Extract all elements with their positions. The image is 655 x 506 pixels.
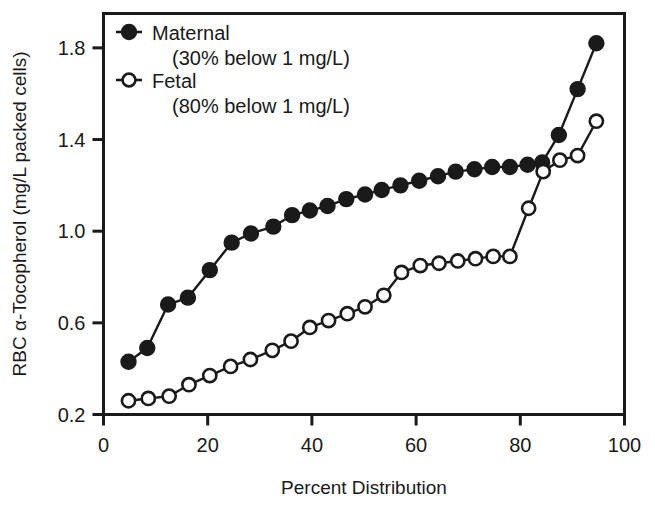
data-point [503, 250, 516, 263]
data-point [266, 344, 279, 357]
legend-sublabel: (30% below 1 mg/L) [172, 47, 350, 69]
data-point [244, 226, 259, 241]
chart-figure: 0.20.61.01.41.8 020406080100 Percent Dis… [0, 0, 655, 506]
data-point [571, 149, 584, 162]
data-point [285, 208, 300, 223]
data-point [590, 115, 603, 128]
data-point [224, 235, 239, 250]
data-point [303, 321, 316, 334]
data-point [377, 289, 390, 302]
data-point [502, 160, 517, 175]
data-point [414, 259, 427, 272]
data-point [181, 290, 196, 305]
legend-item-maternal: Maternal(30% below 1 mg/L) [116, 22, 350, 69]
data-point [202, 263, 217, 278]
data-point [522, 202, 535, 215]
data-point [339, 192, 354, 207]
data-point [121, 354, 136, 369]
y-tick-label: 1.0 [58, 220, 86, 242]
legend-label: Fetal [152, 70, 196, 92]
y-axis-title: RBC α-Tocopherol (mg/L packed cells) [9, 52, 30, 377]
x-tick-label: 60 [405, 434, 427, 456]
data-point [467, 162, 482, 177]
data-point [163, 390, 176, 403]
data-point [358, 187, 373, 202]
y-axis-tick-labels: 0.20.61.01.41.8 [58, 37, 86, 426]
data-point [551, 128, 566, 143]
data-point [412, 173, 427, 188]
data-point [395, 266, 408, 279]
legend-marker [122, 25, 137, 40]
data-point [320, 199, 335, 214]
line-chart: 0.20.61.01.41.8 020406080100 Percent Dis… [0, 0, 655, 506]
chart-legend: Maternal(30% below 1 mg/L)Fetal(80% belo… [116, 22, 350, 117]
data-point [122, 394, 135, 407]
data-point [570, 82, 585, 97]
data-point [553, 154, 566, 167]
data-point [244, 353, 257, 366]
data-point [266, 219, 281, 234]
data-point [140, 341, 155, 356]
x-tick-label: 80 [509, 434, 531, 456]
x-axis-tick-labels: 020406080100 [98, 434, 641, 456]
data-point [589, 36, 604, 51]
data-point [142, 392, 155, 405]
data-point [485, 160, 500, 175]
x-tick-label: 0 [98, 434, 109, 456]
x-axis-ticks [104, 415, 625, 426]
data-point [203, 369, 216, 382]
y-tick-label: 0.6 [58, 312, 86, 334]
data-point [431, 169, 446, 184]
data-point [469, 252, 482, 265]
data-point [432, 257, 445, 270]
legend-sublabel: (80% below 1 mg/L) [172, 95, 350, 117]
legend-item-fetal: Fetal(80% below 1 mg/L) [116, 70, 350, 117]
legend-label: Maternal [152, 22, 230, 44]
data-point [451, 254, 464, 267]
data-point [393, 178, 408, 193]
data-point [302, 203, 317, 218]
data-point [487, 250, 500, 263]
data-point [284, 335, 297, 348]
data-point [358, 300, 371, 313]
x-tick-label: 100 [608, 434, 641, 456]
data-point [341, 307, 354, 320]
x-tick-label: 20 [197, 434, 219, 456]
y-tick-label: 1.4 [58, 129, 86, 151]
x-tick-label: 40 [301, 434, 323, 456]
data-point [374, 183, 389, 198]
legend-marker [123, 74, 136, 87]
data-point [161, 297, 176, 312]
x-axis-title: Percent Distribution [281, 477, 447, 498]
y-axis-ticks [93, 48, 104, 415]
y-tick-label: 0.2 [58, 404, 86, 426]
data-point [520, 157, 535, 172]
data-point [322, 314, 335, 327]
data-point [537, 165, 550, 178]
data-point [448, 164, 463, 179]
y-tick-label: 1.8 [58, 37, 86, 59]
data-point [182, 378, 195, 391]
data-point [224, 360, 237, 373]
